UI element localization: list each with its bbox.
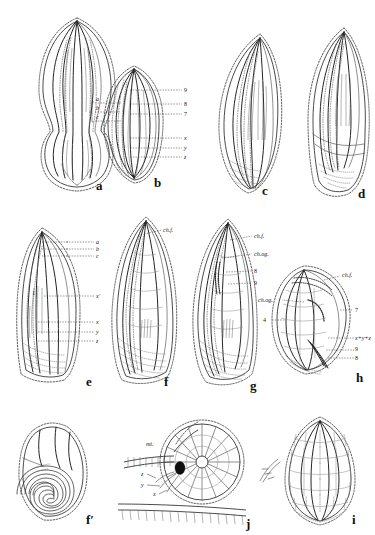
label-b-y: y <box>183 145 187 151</box>
figure-j: mi. z y x j <box>112 416 252 534</box>
figure-b: a b c 9 8 7 x y z b <box>86 60 194 190</box>
figure-i-fragment <box>256 455 282 487</box>
label-b-8: 8 <box>184 101 187 107</box>
label-e-c: c <box>96 253 99 259</box>
label-j-mi: mi. <box>146 441 154 447</box>
label-e-a: a <box>96 239 99 245</box>
figure-h: ch.f. ch.og. 7 x+y+z 9 8 4 h <box>252 258 372 384</box>
label-b-z: z <box>183 154 187 160</box>
figure-e: a b c 1 x′ x y z e <box>8 222 112 390</box>
panel-letter-c: c <box>262 183 268 198</box>
label-b-c: c <box>96 114 99 120</box>
label-h-chf: ch.f. <box>342 272 352 278</box>
label-e-xprime: x′ <box>95 293 101 299</box>
label-b-x: x <box>183 135 187 141</box>
figure-f: ch.f. f <box>104 212 188 390</box>
label-e-z: z <box>95 338 99 344</box>
panel-letter-e: e <box>86 374 92 389</box>
label-h-xyz: x+y+z <box>354 335 371 341</box>
label-j-x: x <box>152 491 156 497</box>
panel-letter-j: j <box>245 516 250 531</box>
label-e-1: 1 <box>32 290 35 296</box>
label-b-b: b <box>96 105 99 111</box>
panel-letter-h: h <box>356 370 364 385</box>
panel-letter-i: i <box>352 512 356 527</box>
figure-d: d <box>300 24 375 202</box>
illustration-plate: a a b c <box>0 0 375 535</box>
panel-letter-f-prime: f′ <box>86 512 94 527</box>
label-e-x: x <box>95 319 99 325</box>
figure-i: i <box>274 412 366 530</box>
figure-c: c <box>210 30 294 198</box>
label-e-y: y <box>95 329 99 335</box>
figure-f-prime: f′ <box>10 418 102 530</box>
label-h-9: 9 <box>355 346 358 352</box>
panel-letter-f: f <box>164 374 169 389</box>
label-e-b: b <box>96 246 99 252</box>
label-b-7: 7 <box>184 111 187 117</box>
label-h-4: 4 <box>263 317 266 323</box>
panel-letter-b: b <box>154 175 161 190</box>
label-g-chf: ch.f. <box>254 233 264 239</box>
label-h-8: 8 <box>355 355 358 361</box>
label-h-chog: ch.og. <box>258 297 273 303</box>
label-j-z: z <box>140 471 144 477</box>
label-h-7: 7 <box>355 307 358 313</box>
label-j-y: y <box>140 482 144 488</box>
label-f-chf: ch.f. <box>163 227 173 233</box>
label-b-a: a <box>96 96 99 102</box>
label-b-9: 9 <box>184 87 187 93</box>
label-g-chog: ch.og. <box>254 251 269 257</box>
panel-letter-d: d <box>358 186 366 201</box>
